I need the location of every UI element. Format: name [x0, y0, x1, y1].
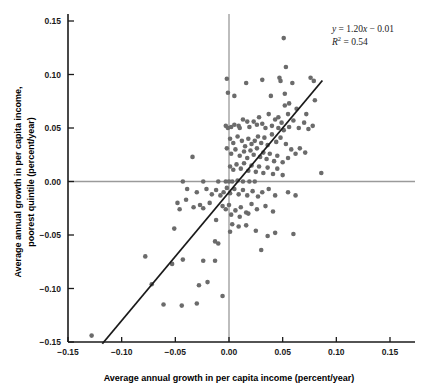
data-point: [190, 155, 195, 160]
data-point: [263, 204, 268, 209]
data-point: [241, 188, 246, 193]
r-squared-value: = 0.54: [341, 37, 368, 47]
data-point: [223, 207, 228, 212]
data-point: [255, 146, 260, 151]
data-point: [210, 192, 215, 197]
data-point: [237, 215, 242, 220]
data-point: [232, 122, 237, 127]
data-point: [302, 120, 307, 125]
x-tick-label: −0.15: [57, 347, 79, 357]
data-point: [195, 190, 200, 195]
data-point: [181, 257, 186, 262]
data-point: [236, 224, 241, 229]
data-point: [280, 160, 285, 165]
data-point: [278, 135, 283, 140]
data-point: [254, 170, 259, 175]
data-point: [264, 157, 269, 162]
data-point: [245, 193, 250, 198]
data-point: [287, 101, 292, 106]
data-point: [248, 148, 253, 153]
data-point: [293, 193, 298, 198]
data-point: [306, 127, 311, 132]
data-point: [172, 226, 177, 231]
y-axis-tick-labels: −0.15−0.10−0.050.000.050.100.15: [39, 16, 61, 347]
data-point: [225, 186, 230, 191]
data-point: [201, 258, 206, 263]
data-point: [239, 205, 244, 210]
data-point: [260, 121, 265, 126]
data-point: [233, 147, 238, 152]
data-point: [213, 258, 218, 263]
data-point: [291, 232, 296, 237]
data-point: [201, 179, 206, 184]
data-point: [256, 194, 261, 199]
x-tick-label: −0.05: [165, 347, 187, 357]
data-point: [255, 122, 260, 127]
data-point: [179, 303, 184, 308]
y-tick-label: 0.15: [44, 16, 61, 26]
data-point: [260, 78, 265, 83]
data-point: [275, 154, 280, 159]
data-point: [265, 234, 270, 239]
data-point: [284, 65, 289, 70]
data-point: [259, 141, 264, 146]
data-point: [244, 81, 249, 86]
data-point: [281, 36, 286, 41]
data-point: [214, 188, 219, 193]
data-point: [225, 146, 230, 151]
x-tick-label: 0.05: [274, 347, 291, 357]
data-point: [263, 126, 268, 131]
data-point: [181, 179, 186, 184]
data-point: [241, 179, 246, 184]
data-point: [240, 139, 245, 144]
data-point: [221, 190, 226, 195]
data-point: [241, 117, 246, 122]
data-point: [286, 112, 291, 117]
data-point: [185, 187, 190, 192]
data-point: [251, 152, 256, 157]
data-point: [254, 228, 259, 233]
data-point: [237, 154, 242, 159]
y-axis-title-line1: Average annual growth in per capita inco…: [13, 86, 23, 277]
data-point: [269, 94, 274, 99]
data-point: [286, 190, 291, 195]
data-point: [256, 134, 261, 139]
data-point: [216, 241, 221, 246]
data-point: [228, 136, 233, 141]
data-point: [184, 197, 189, 202]
data-point: [266, 187, 271, 192]
x-axis-tick-labels: −0.15−0.10−0.050.000.050.100.15: [57, 347, 398, 357]
equation-annotation: y = 1.20x − 0.01 R2 = 0.54: [331, 24, 394, 47]
data-point: [220, 294, 225, 299]
data-point: [228, 229, 233, 234]
data-point: [257, 164, 262, 169]
data-point: [284, 142, 289, 147]
svg-text:R2 = 0.54: R2 = 0.54: [331, 35, 368, 47]
data-point: [230, 179, 235, 184]
data-point: [246, 211, 251, 216]
data-point: [296, 126, 301, 131]
data-point: [197, 283, 202, 288]
data-point: [266, 112, 271, 117]
data-point: [276, 126, 281, 131]
data-point: [207, 201, 212, 206]
data-point: [231, 141, 236, 146]
regression-line: [102, 80, 322, 343]
data-point: [319, 171, 324, 176]
data-point: [283, 91, 288, 96]
data-point: [161, 302, 166, 307]
data-point: [270, 132, 275, 137]
data-point: [257, 115, 262, 120]
equation-slope: = 1.20: [336, 24, 363, 34]
data-point: [286, 156, 291, 161]
data-point: [304, 112, 309, 117]
data-point: [229, 212, 234, 217]
data-point: [247, 179, 252, 184]
data-point: [273, 193, 278, 198]
data-point: [205, 280, 210, 285]
data-point: [235, 134, 240, 139]
data-point: [214, 218, 219, 223]
data-point: [272, 159, 277, 164]
data-point: [252, 179, 257, 184]
data-point: [247, 125, 252, 130]
